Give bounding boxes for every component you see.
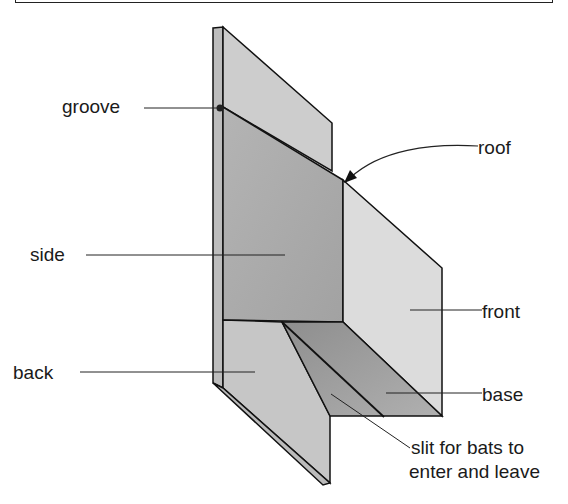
label-slit-line1: slit for bats to	[411, 437, 524, 459]
label-groove: groove	[62, 96, 120, 118]
bat-box-illustration	[0, 0, 568, 504]
back-edge	[213, 27, 223, 388]
label-side: side	[30, 244, 65, 266]
label-front: front	[482, 301, 520, 323]
label-slit-line2: enter and leave	[409, 461, 540, 483]
label-base: base	[482, 384, 523, 406]
label-back: back	[13, 362, 53, 384]
label-roof: roof	[478, 137, 511, 159]
